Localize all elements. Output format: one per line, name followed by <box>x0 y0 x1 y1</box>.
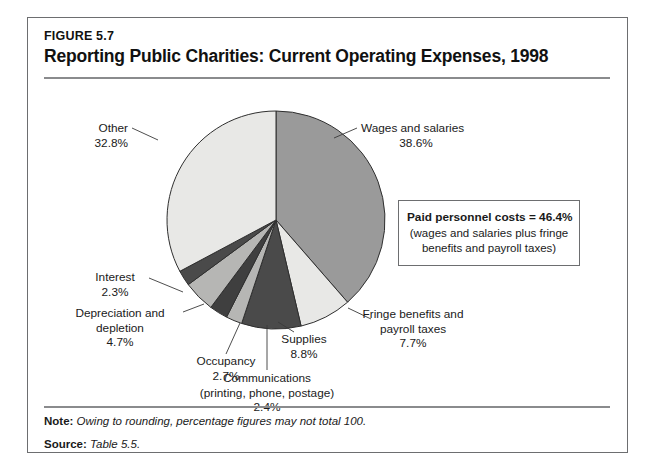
page-title: Reporting Public Charities: Current Oper… <box>44 45 610 68</box>
slice-label-wages-name: Wages and salaries <box>361 121 541 136</box>
leader-line-other <box>132 128 158 140</box>
pie-chart: Wages and salaries 38.6%Fringe benefits … <box>28 80 627 402</box>
slice-label-depreciation-line1: Depreciation and <box>55 306 185 321</box>
slice-label-supplies: Supplies 8.8% <box>273 332 335 361</box>
slice-label-communications-line2: (printing, phone, postage) <box>163 386 371 401</box>
slice-label-depreciation: Depreciation and depletion 4.7% <box>55 306 185 350</box>
slice-label-interest: Interest 2.3% <box>80 270 150 299</box>
slice-label-depreciation-value: 4.7% <box>55 335 185 350</box>
note-text: Owing to rounding, percentage figures ma… <box>77 415 367 427</box>
slice-label-other-name: Other <box>36 121 128 136</box>
callout-subtext-line2: benefits and payroll taxes) <box>407 241 571 256</box>
slice-label-interest-value: 2.3% <box>80 285 150 300</box>
figure-frame: FIGURE 5.7 Reporting Public Charities: C… <box>27 17 628 453</box>
figure-header: FIGURE 5.7 Reporting Public Charities: C… <box>44 28 610 68</box>
leader-line-depreciation <box>183 304 204 312</box>
slice-label-wages: Wages and salaries 38.6% <box>361 121 541 150</box>
source-line: Source: Table 5.5. <box>44 437 140 452</box>
slice-label-fringe: Fringe benefits and payroll taxes 7.7% <box>348 307 478 351</box>
slice-label-occupancy: Occupancy 2.7% <box>180 354 272 383</box>
note-label: Note: <box>44 415 73 427</box>
source-text: Table 5.5. <box>90 438 140 450</box>
slice-label-occupancy-value: 2.7% <box>180 369 272 384</box>
slice-label-supplies-value: 8.8% <box>273 347 335 362</box>
slice-label-other-value: 32.8% <box>36 136 128 151</box>
pie-slices: Wages and salaries 38.6%Fringe benefits … <box>167 111 385 329</box>
slice-label-wages-value: 38.6% <box>361 136 471 151</box>
note-line: Note: Owing to rounding, percentage figu… <box>44 414 366 429</box>
slice-label-other: Other 32.8% <box>36 121 128 150</box>
callout-subtext-line1: (wages and salaries plus fringe <box>407 226 571 241</box>
slice-label-fringe-line1: Fringe benefits and <box>348 307 478 322</box>
leader-line-interest <box>149 278 183 292</box>
source-label: Source: <box>44 438 87 450</box>
slice-label-supplies-name: Supplies <box>273 332 335 347</box>
slice-label-depreciation-line2: depletion <box>55 321 185 336</box>
slice-label-fringe-line2: payroll taxes <box>348 322 478 337</box>
callout-title: Paid personnel costs = 46.4% <box>407 210 571 225</box>
callout-box: Paid personnel costs = 46.4% (wages and … <box>398 200 580 266</box>
header-divider <box>44 77 610 79</box>
footer-divider <box>44 406 610 408</box>
leader-line-occupancy <box>226 323 240 354</box>
slice-label-fringe-value: 7.7% <box>348 336 478 351</box>
figure-number: FIGURE 5.7 <box>44 28 610 44</box>
callout-subtext: (wages and salaries plus fringe benefits… <box>407 226 571 255</box>
slice-label-occupancy-name: Occupancy <box>180 354 272 369</box>
slice-label-interest-name: Interest <box>80 270 150 285</box>
